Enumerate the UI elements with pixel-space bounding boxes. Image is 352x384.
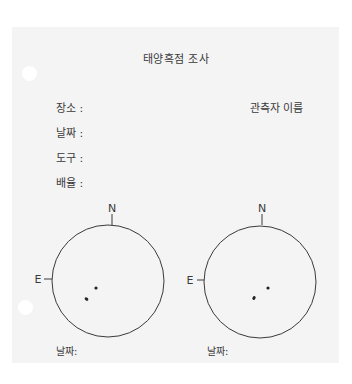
sun-disk-outline (204, 226, 316, 338)
north-label: N (108, 202, 116, 215)
diagram-right-date-label: 날짜: (207, 343, 228, 358)
sun-disk-outline (52, 225, 164, 337)
diagram-left-date-label: 날짜: (56, 343, 77, 358)
north-label: N (258, 202, 266, 215)
sunspot (252, 296, 257, 301)
sun-diagram-left: N E (35, 202, 164, 337)
east-label: E (187, 274, 194, 287)
east-label: E (35, 273, 42, 286)
sun-diagrams: N E N E (0, 0, 352, 384)
sun-diagram-right: N E (187, 202, 316, 338)
sunspot (84, 297, 89, 302)
sunspot (94, 286, 97, 289)
sunspot (266, 286, 269, 289)
